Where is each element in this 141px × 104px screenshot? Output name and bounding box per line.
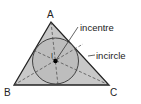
incircle-leader-line bbox=[88, 55, 95, 56]
incentre-marker-label: I bbox=[51, 52, 53, 59]
vertex-label-a: A bbox=[47, 9, 54, 20]
incircle-label: incircle bbox=[96, 50, 126, 61]
vertex-label-b: B bbox=[4, 87, 11, 98]
incircle-diagram: A B C I incentre incircle bbox=[0, 0, 141, 104]
incentre-label: incentre bbox=[80, 22, 114, 33]
vertex-label-c: C bbox=[110, 87, 117, 98]
